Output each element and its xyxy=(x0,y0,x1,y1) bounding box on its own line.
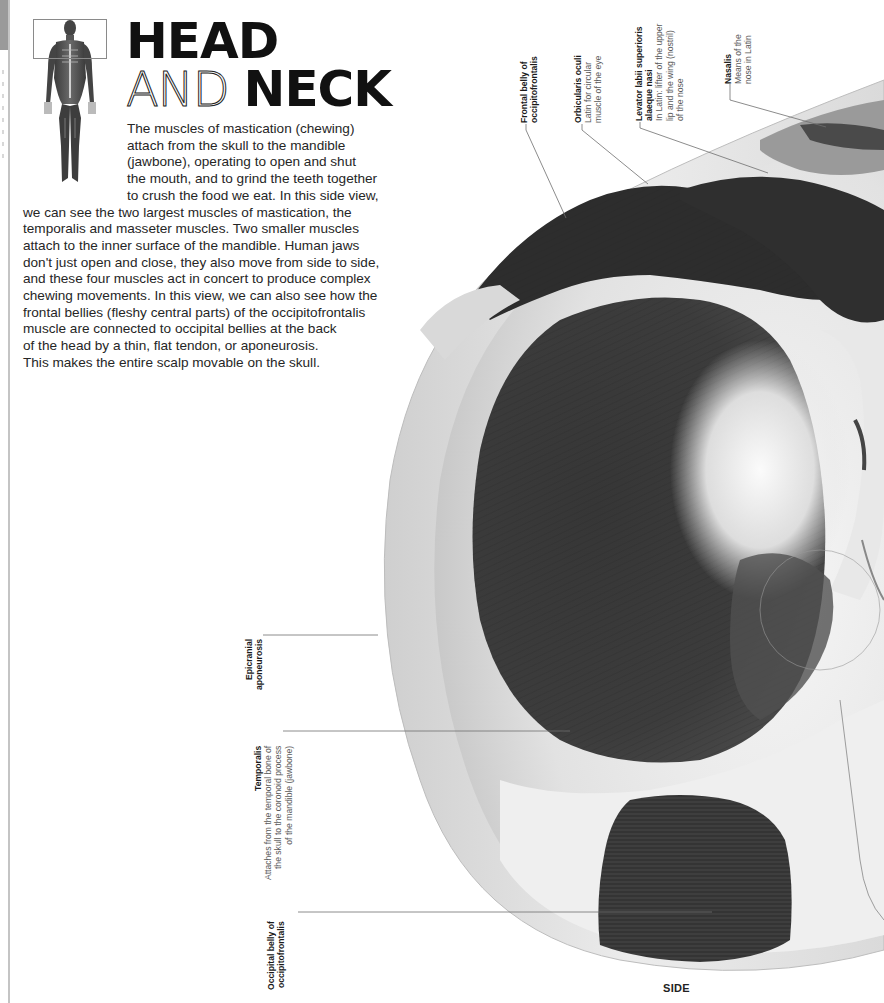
label-desc: lip and the wing (nostril) xyxy=(665,24,675,121)
label-occipital-belly: Occipital belly of occipitofrontalis xyxy=(266,921,286,990)
label-desc: of the mandible (jawbone) xyxy=(284,746,294,880)
label-title: Occipital belly of xyxy=(266,921,276,990)
label-title: occipitofrontalis xyxy=(276,921,286,990)
label-desc: Latin for circular xyxy=(583,55,593,123)
label-title: Levator labii superioris xyxy=(634,24,644,121)
label-title: alaeque nasi xyxy=(644,24,654,121)
label-title: Temporalis xyxy=(253,746,263,880)
label-desc: muscle of the eye xyxy=(593,55,603,123)
label-title: Nasalis xyxy=(723,34,733,84)
label-temporalis: Temporalis Attaches from the temporal bo… xyxy=(253,746,294,880)
label-title: Epicranial xyxy=(244,639,254,690)
label-orbicularis-oculi: Orbicularis oculi Latin for circular mus… xyxy=(573,55,604,123)
label-epicranial-aponeurosis: Epicranial aponeurosis xyxy=(244,639,264,690)
label-desc: the skull to the coronoid process xyxy=(273,746,283,880)
label-title: aponeurosis xyxy=(254,639,264,690)
label-title: occipitofrontalis xyxy=(529,56,539,123)
label-nasalis: Nasalis Means of the nose in Latin xyxy=(723,34,754,84)
label-title: Orbicularis oculi xyxy=(573,55,583,123)
label-frontal-belly: Frontal belly of occipitofrontalis xyxy=(519,56,539,123)
label-desc: Attaches from the temporal bone of xyxy=(263,746,273,880)
label-levator-labii: Levator labii superioris alaeque nasi In… xyxy=(634,24,685,121)
label-desc: In Latin: lifter of the upper xyxy=(654,24,664,121)
label-desc: nose in Latin xyxy=(743,34,753,84)
label-title: Frontal belly of xyxy=(519,56,529,123)
label-desc: of the nose xyxy=(675,24,685,121)
head-muscles-side-illustration xyxy=(0,0,884,1003)
view-label: SIDE xyxy=(663,982,690,994)
label-desc: Means of the xyxy=(733,34,743,84)
